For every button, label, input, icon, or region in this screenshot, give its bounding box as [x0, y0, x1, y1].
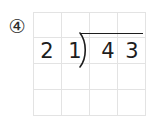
- grid-cell[interactable]: [33, 90, 62, 116]
- grid-cell[interactable]: [33, 64, 62, 90]
- grid-cell[interactable]: [90, 38, 118, 64]
- grid-cell[interactable]: [62, 90, 90, 116]
- grid-cell[interactable]: [118, 12, 146, 38]
- grid-row: [33, 12, 146, 38]
- problem-number-label: ④: [4, 13, 30, 39]
- grid-row: [33, 38, 146, 64]
- grid-row: [33, 64, 146, 90]
- answer-grid: [33, 12, 146, 116]
- grid-cell[interactable]: [90, 64, 118, 90]
- worksheet-problem-card: ④ 2 1: [0, 0, 146, 120]
- grid-cell[interactable]: [90, 90, 118, 116]
- grid-cell[interactable]: [118, 90, 146, 116]
- grid-cell[interactable]: [62, 38, 90, 64]
- grid-cell[interactable]: [118, 38, 146, 64]
- grid-row: [33, 90, 146, 116]
- grid-cell[interactable]: [33, 12, 62, 38]
- grid-cell[interactable]: [118, 64, 146, 90]
- grid-cell[interactable]: [62, 12, 90, 38]
- grid-cell[interactable]: [33, 38, 62, 64]
- grid-cell[interactable]: [90, 12, 118, 38]
- grid-cell[interactable]: [62, 64, 90, 90]
